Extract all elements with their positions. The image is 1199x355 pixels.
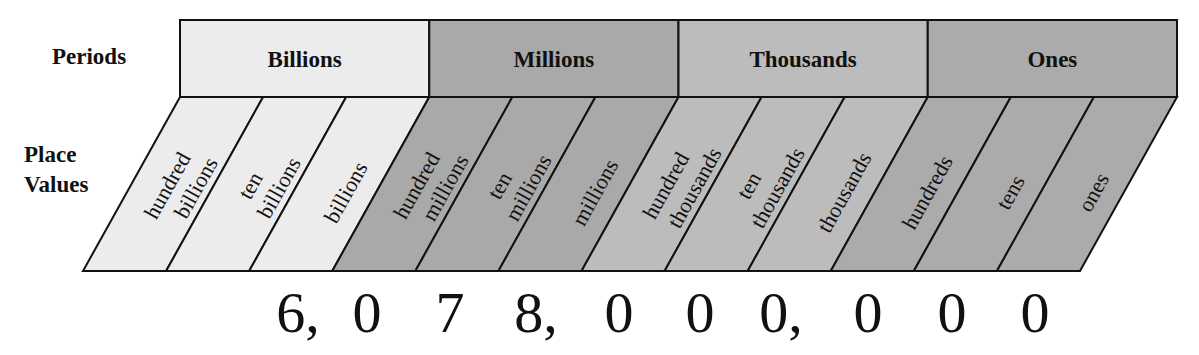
period-billions: Billions	[180, 20, 429, 97]
digit: 0	[353, 278, 382, 348]
period-millions: Millions	[429, 20, 678, 97]
digit: 0,	[759, 278, 803, 348]
period-label: Billions	[268, 47, 342, 72]
digit: 8,	[514, 278, 558, 348]
digit: 6,	[276, 278, 320, 348]
digit: 0	[938, 278, 967, 348]
period-ones: Ones	[928, 20, 1177, 97]
period-label: Thousands	[749, 47, 856, 72]
digit: 7	[436, 278, 465, 348]
digit: 0	[686, 278, 715, 348]
digit: 0	[854, 278, 883, 348]
period-label: Millions	[514, 47, 595, 72]
period-thousands: Thousands	[679, 20, 928, 97]
digit: 0	[605, 278, 634, 348]
period-label: Ones	[1027, 47, 1077, 72]
digit: 0	[1021, 278, 1050, 348]
number-digits: 6,078,000,000	[0, 278, 1199, 348]
